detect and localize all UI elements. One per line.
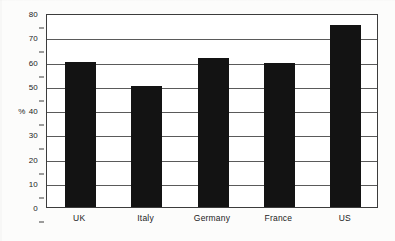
y-axis-tick-label: 50 [29,82,38,91]
bar [131,86,162,207]
y-axis-tick-label: 70 [29,34,38,43]
x-axis-tick-label: UK [73,213,85,223]
y-axis-tick-mark [39,52,44,53]
y-axis-tick-label: 0 [33,204,38,213]
bar [330,25,361,207]
y-axis-tick-mark [39,76,44,77]
y-axis-tick-label: %40 [18,107,38,116]
y-axis-tick-mark [39,100,44,101]
y-axis-tick-mark [39,125,44,126]
y-axis-tick-label: 60 [29,58,38,67]
y-axis-tick-mark [39,197,44,198]
y-axis-unit-label: % [18,107,25,116]
bar [65,62,96,208]
bar-chart-figure: 0102030%4050607080 UKItalyGermanyFranceU… [0,0,395,241]
x-axis-tick-label: France [265,213,293,223]
y-axis-tick-label: 10 [29,179,38,188]
x-axis-tick-label: Italy [137,213,154,223]
y-axis-tick-label: 20 [29,155,38,164]
gridline [47,39,377,40]
bar [264,63,295,207]
x-axis-tick-label: Germany [194,213,230,223]
x-axis: UKItalyGermanyFranceUS [46,213,378,231]
y-axis-tick-mark [39,222,44,223]
plot-area [46,14,378,208]
bar [198,58,229,207]
y-axis-tick-mark [39,173,44,174]
y-axis-tick-mark [39,149,44,150]
y-axis-tick-label: 30 [29,131,38,140]
y-axis: 0102030%4050607080 [0,14,44,208]
x-axis-tick-label: US [339,213,351,223]
y-axis-tick-mark [39,28,44,29]
y-axis-tick-label: 80 [29,10,38,19]
